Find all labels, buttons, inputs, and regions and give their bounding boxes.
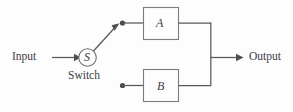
arrow-head-output <box>236 54 244 61</box>
switch-symbol-label: S <box>84 51 90 63</box>
block-b-label: B <box>157 80 164 92</box>
output-label: Output <box>249 51 281 63</box>
wire-switch-lever <box>94 29 115 52</box>
block-a-label: A <box>156 17 163 29</box>
input-label: Input <box>12 51 36 63</box>
switch-caption-label: Switch <box>68 70 100 82</box>
switch-block-diagram: Input S Switch A B Output <box>0 0 293 112</box>
